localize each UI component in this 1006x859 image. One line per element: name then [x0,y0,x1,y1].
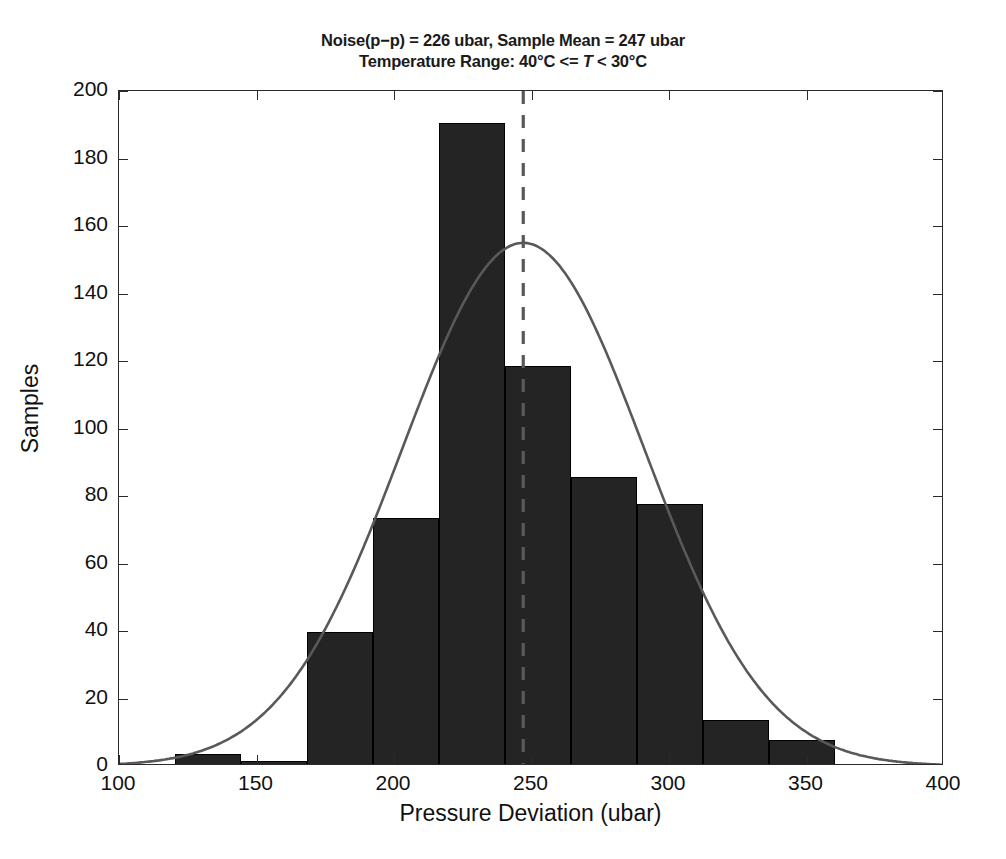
y-tick-label: 20 [48,685,108,709]
x-tick-label: 200 [348,771,438,795]
y-tick-label: 180 [48,145,108,169]
y-tick-label: 100 [48,415,108,439]
x-tick-label: 400 [898,771,988,795]
y-tick-label: 200 [48,77,108,101]
y-tick-label: 40 [48,617,108,641]
x-tick-label: 100 [73,771,163,795]
x-tick-label: 250 [486,771,576,795]
y-tick-label: 80 [48,482,108,506]
y-axis-title: Samples [17,309,44,509]
y-tick-label: 140 [48,280,108,304]
x-tick-label: 300 [623,771,713,795]
x-axis-title: Pressure Deviation (ubar) [118,800,943,827]
axis-labels-layer: 0204060801001201401601802001001502002503… [0,0,1006,859]
x-tick-label: 150 [211,771,301,795]
y-tick-label: 120 [48,347,108,371]
y-tick-label: 160 [48,212,108,236]
y-tick-label: 60 [48,550,108,574]
x-tick-label: 350 [761,771,851,795]
histogram-figure: Noise(p−p) = 226 ubar, Sample Mean = 247… [0,0,1006,859]
